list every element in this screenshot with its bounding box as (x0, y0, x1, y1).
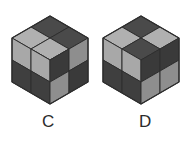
figure-d: D (97, 0, 194, 144)
figure-panel: C (0, 0, 194, 144)
figure-c-label: C (0, 112, 97, 132)
figure-c: C (0, 0, 97, 144)
cube-d-illustration (97, 0, 194, 112)
cube-c-illustration (0, 0, 97, 112)
figure-d-label: D (97, 112, 194, 132)
